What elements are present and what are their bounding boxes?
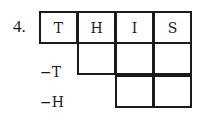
grid-cell-r3-c3[interactable]	[115, 75, 154, 108]
grid-cell-r1-c4: S	[153, 11, 192, 44]
row-label-minus-h: −H	[40, 94, 64, 110]
grid-cell-r3-c4[interactable]	[153, 75, 192, 108]
problem-number: 4.	[13, 17, 26, 37]
grid-cell-r1-c1: T	[39, 11, 78, 44]
grid-cell-r2-c2[interactable]	[77, 42, 116, 75]
grid-cell-r2-c4[interactable]	[153, 42, 192, 75]
grid-cell-r1-c3: I	[115, 11, 154, 44]
row-label-minus-t: −T	[40, 64, 61, 80]
grid-cell-r2-c3[interactable]	[115, 42, 154, 75]
grid-cell-r1-c2: H	[77, 11, 116, 44]
